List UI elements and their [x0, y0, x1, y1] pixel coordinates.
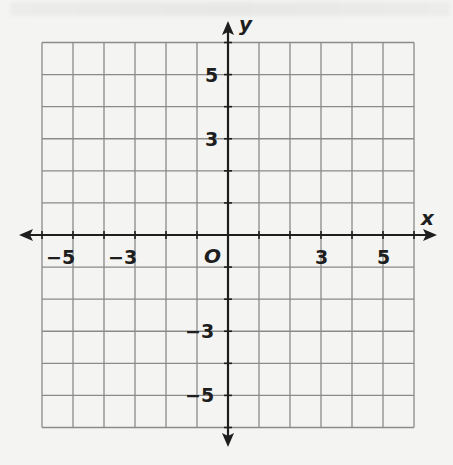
origin-label: O [204, 246, 221, 266]
coordinate-grid [0, 0, 453, 465]
y-axis-label: y [239, 14, 252, 34]
y-tick-label: 3 [205, 130, 218, 149]
x-tick-label: −3 [108, 248, 137, 267]
x-axis-label: x [421, 208, 434, 228]
y-tick-label: −5 [185, 386, 214, 405]
y-tick-label: −3 [185, 322, 214, 341]
y-tick-label: 5 [205, 66, 218, 85]
x-tick-label: −5 [46, 248, 75, 267]
x-tick-label: 5 [377, 248, 390, 267]
x-tick-label: 3 [315, 248, 328, 267]
